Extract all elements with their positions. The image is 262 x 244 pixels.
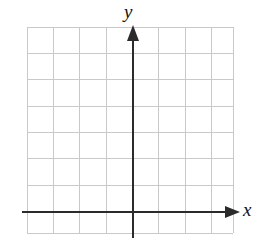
y-axis [127, 25, 139, 238]
grid-lines [27, 27, 234, 234]
y-axis-label: y [124, 2, 132, 21]
coordinate-plane-figure: y x [0, 0, 262, 244]
coordinate-plane-graphic [0, 0, 262, 244]
x-axis [22, 206, 240, 218]
x-axis-label: x [243, 200, 251, 219]
grid-horizontal-lines [27, 28, 233, 234]
grid-vertical-lines [28, 27, 234, 233]
x-axis-arrowhead [225, 206, 240, 218]
